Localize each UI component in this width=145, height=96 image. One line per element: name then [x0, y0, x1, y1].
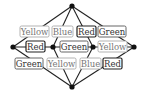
label-box-yellow: Yellow: [47, 58, 76, 69]
graph-diagram: YellowBlueRedGreenRedGreenYellowGreenYel…: [0, 0, 145, 96]
labels-group: YellowBlueRedGreenRedGreenYellowGreenYel…: [15, 26, 127, 69]
vertex-right: [131, 44, 136, 49]
label-box-yellow: Yellow: [98, 41, 127, 52]
label-text: Red: [104, 59, 121, 69]
vertex-left: [10, 44, 15, 49]
label-box-green: Green: [98, 26, 126, 37]
label-box-blue: Blue: [52, 26, 73, 37]
label-box-yellow: Yellow: [20, 26, 49, 37]
vertex-mid-right: [90, 44, 95, 49]
vertex-bottom: [69, 84, 74, 89]
label-text: Blue: [81, 59, 100, 69]
label-box-red: Red: [77, 26, 96, 37]
label-text: Blue: [53, 27, 72, 37]
label-box-green: Green: [15, 58, 43, 69]
label-text: Green: [16, 59, 43, 69]
label-text: Red: [78, 27, 95, 37]
vertex-top: [69, 3, 74, 8]
label-text: Yellow: [20, 27, 49, 37]
label-box-red: Red: [103, 58, 122, 69]
label-text: Red: [27, 42, 44, 52]
label-text: Green: [99, 27, 126, 37]
label-box-blue: Blue: [80, 58, 101, 69]
label-box-green: Green: [60, 41, 88, 52]
label-box-red: Red: [26, 41, 45, 52]
label-text: Green: [61, 42, 88, 52]
vertex-mid-left: [50, 44, 55, 49]
label-text: Yellow: [98, 42, 127, 52]
label-text: Yellow: [47, 59, 76, 69]
